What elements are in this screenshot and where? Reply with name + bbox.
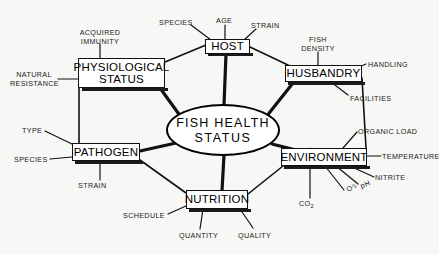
spoke-center-to-pathogen: [140, 143, 176, 151]
leaf-strain-host: STRAIN: [251, 21, 279, 30]
spoke-center-to-nutrition: [222, 155, 224, 191]
leaf-fish-density-line2: DENSITY: [301, 44, 335, 53]
physiological-status-shadow: [82, 88, 168, 91]
nutrition-shadow: [189, 209, 251, 212]
leaf-age: AGE: [216, 16, 232, 25]
leader-schedule: [168, 206, 186, 214]
leader-group-host: [191, 25, 256, 40]
leaf-age-text: AGE: [216, 16, 232, 25]
pathogen-shadow: [75, 161, 143, 164]
leaf-organic-load-text: ORGANIC LOAD: [358, 127, 417, 136]
node-husbandry[interactable]: HUSBANDRY: [285, 65, 362, 82]
leaf-strain-pathogen-text: STRAIN: [78, 181, 106, 190]
leaf-facilities-text: FACILITIES: [350, 94, 391, 103]
leaf-natural-resistance-line1: NATURAL: [16, 70, 51, 79]
leaf-strain-pathogen: STRAIN: [78, 181, 106, 190]
leaf-acquired-immunity-line1: ACQUIRED: [80, 28, 121, 37]
leaf-carbon-dioxide: CO2: [299, 199, 314, 210]
leaf-carbon-dioxide-text: CO: [299, 199, 310, 208]
leaf-species-pathogen-text: SPECIES: [14, 155, 48, 164]
leader-species-host: [191, 25, 211, 40]
node-physiological-status[interactable]: PHYSIOLOGICAL STATUS: [78, 58, 165, 88]
leaf-temperature: TEMPERATURE: [382, 152, 439, 161]
ring-physiological-to-host: [165, 45, 206, 62]
node-label-physiological-line2: STATUS: [99, 73, 144, 85]
leader-organic-load: [343, 132, 357, 148]
leaf-type-pathogen: TYPE: [22, 126, 42, 135]
leaf-natural-resistance-line2: RESISTANCE: [10, 79, 59, 88]
leader-quantity: [200, 209, 203, 229]
leaf-handling-text: HANDLING: [368, 60, 408, 69]
spoke-center-to-host: [224, 54, 226, 105]
node-label-pathogen: PATHOGEN: [74, 146, 138, 158]
leaf-type-pathogen-text: TYPE: [22, 126, 42, 135]
leaf-schedule: SCHEDULE: [123, 211, 165, 220]
center-label-line2: STATUS: [194, 131, 251, 145]
leaf-natural-resistance: NATURAL RESISTANCE: [10, 70, 58, 88]
leaf-quality-text: QUALITY: [238, 231, 271, 240]
leaf-quantity: QUANTITY: [179, 231, 218, 240]
leaf-organic-load: ORGANIC LOAD: [358, 127, 417, 136]
leaf-handling: HANDLING: [368, 60, 408, 69]
ring-nutrition-to-pathogen: [140, 160, 186, 193]
node-label-husbandry: HUSBANDRY: [287, 67, 361, 79]
environment-shadow: [284, 166, 370, 169]
leader-species-pathogen: [50, 157, 72, 159]
leaf-temperature-text: TEMPERATURE: [382, 152, 439, 161]
spoke-center-to-husbandry: [266, 83, 293, 117]
node-nutrition[interactable]: NUTRITION: [186, 190, 248, 209]
node-label-nutrition: NUTRITION: [185, 193, 249, 205]
leader-type-pathogen: [45, 131, 72, 144]
leaf-acquired-immunity-line2: IMMUNITY: [81, 37, 119, 46]
center-label-line1: FISH HEALTH: [176, 116, 270, 130]
ring-host-to-husbandry: [250, 47, 290, 66]
node-host[interactable]: HOST: [205, 39, 250, 54]
leaf-nitrite-text: NITRITE: [375, 173, 405, 182]
leaf-quantity-text: QUANTITY: [179, 231, 218, 240]
leaf-schedule-text: SCHEDULE: [123, 211, 165, 220]
leaf-fish-density-line1: FISH: [309, 35, 327, 44]
leaf-acquired-immunity: ACQUIRED IMMUNITY: [74, 28, 126, 46]
leaf-facilities: FACILITIES: [350, 94, 391, 103]
node-label-physiological-line1: PHYSIOLOGICAL: [74, 61, 170, 73]
center-node-fish-health-status[interactable]: FISH HEALTH STATUS: [166, 104, 280, 156]
leaf-species-host: SPECIES: [159, 18, 193, 27]
leaf-species-pathogen: SPECIES: [14, 155, 48, 164]
fish-health-status-diagram: PHYSIOLOGICAL STATUS HOST HUSBANDRY ENVI…: [0, 0, 439, 254]
ring-husbandry-to-environment: [362, 78, 366, 148]
node-label-environment: ENVIRONMENT: [280, 151, 367, 163]
ring-environment-to-nutrition: [248, 166, 283, 194]
leaf-quality: QUALITY: [238, 231, 271, 240]
leaf-fish-density: FISH DENSITY: [296, 35, 340, 53]
husbandry-shadow: [288, 82, 365, 85]
node-pathogen[interactable]: PATHOGEN: [72, 143, 140, 161]
leaf-species-host-text: SPECIES: [159, 18, 193, 27]
node-environment[interactable]: ENVIRONMENT: [281, 148, 367, 166]
leaf-nitrite: NITRITE: [375, 173, 405, 182]
leaf-strain-host-text: STRAIN: [251, 21, 279, 30]
node-label-host: HOST: [211, 40, 244, 52]
leaf-carbon-dioxide-subscript: 2: [310, 203, 313, 209]
